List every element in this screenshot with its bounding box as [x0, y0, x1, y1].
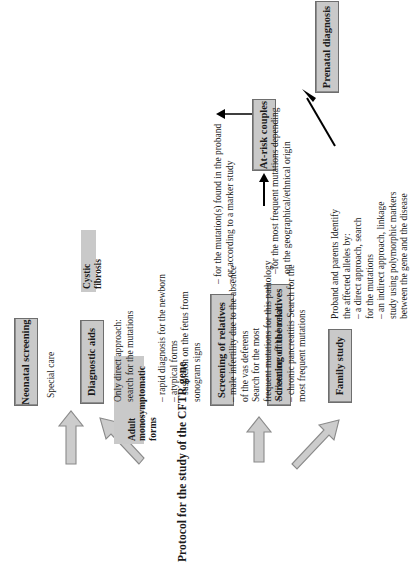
annotation-diagnostic-aids-body: Only direct approach: search for the mut… [113, 310, 136, 402]
tag-cystic-fibrosis: Cystic fibrosis [81, 230, 96, 292]
node-neonatal-screening[interactable]: Neonatal screening [14, 318, 38, 406]
node-prenatal-diagnosis-label: Prenatal diagnosis [321, 6, 332, 88]
annotation-family-study-body: Proband and parents Identify the affecte… [330, 192, 411, 319]
arrow-title-to-neonatal-screening [56, 410, 86, 464]
arrow-title-to-screening-of-relatives [245, 416, 273, 462]
annotation-screening-of-relatives-body: – for the mutation(s) found in the proba… [213, 124, 236, 284]
node-family-study-label: Family study [334, 337, 345, 396]
node-screening-of-relatives-label: Screening of relatives [216, 302, 227, 398]
node-at-risk-couples-label: At-risk couples [258, 101, 269, 169]
annotation-special-care: Special care [46, 352, 58, 398]
node-diagnostic-aids-label: Diagnostic aids [86, 328, 97, 396]
annotation-adult-monosymptomatic-body: – male infertility due to the absence of… [228, 261, 309, 402]
arrow-title-to-family-study [286, 404, 344, 466]
node-neonatal-screening-label: Neonatal screening [20, 319, 31, 404]
arrow-relatives-to-at-risk-couples [258, 172, 270, 206]
node-prenatal-diagnosis[interactable]: Prenatal diagnosis [315, 1, 339, 93]
arrow-family-study-to-prenatal-diagnosis [297, 84, 337, 146]
tag-cystic-fibrosis-label: Cystic fibrosis [82, 233, 103, 289]
annotation-screening-of-the-relatives-body: –for the most frequent mutations dependi… [270, 108, 293, 274]
node-family-study[interactable]: Family study [328, 329, 352, 403]
annotation-cystic-fibrosis-body: – rapid diagnosis for the newborn – atyp… [157, 274, 203, 402]
node-diagnostic-aids[interactable]: Diagnostic aids [80, 320, 104, 404]
